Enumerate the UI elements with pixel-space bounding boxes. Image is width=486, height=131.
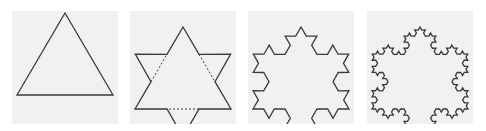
- panel-iteration-3: [367, 11, 473, 124]
- koch-shape-2: [248, 11, 354, 124]
- koch-shape-0: [12, 11, 118, 124]
- koch-shape-1: [130, 11, 236, 124]
- panel-iteration-1: [130, 11, 236, 124]
- koch-shape-3: [367, 11, 473, 124]
- panel-iteration-2: [248, 11, 354, 124]
- panel-iteration-0: [12, 11, 118, 124]
